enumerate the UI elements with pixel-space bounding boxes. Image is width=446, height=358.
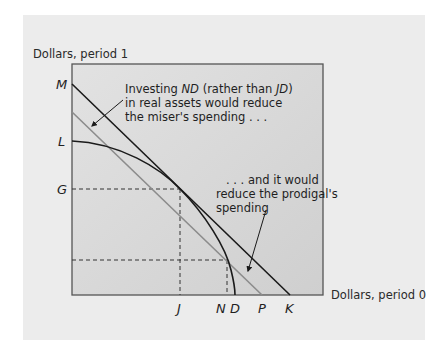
annotation-miser-line1-mid: (rather than: [199, 82, 276, 96]
x-label-j: J: [174, 301, 181, 316]
annotation-miser-line1-em1: ND: [182, 82, 200, 96]
x-label-d: D: [230, 301, 240, 316]
x-label-n: N: [216, 301, 226, 316]
svg-text:Investing ND (rather than JD): Investing ND (rather than JD): [125, 82, 293, 96]
x-label-k: K: [285, 301, 295, 316]
x-axis-title: Dollars, period 0: [331, 288, 426, 302]
annotation-miser-line1-post: ): [288, 82, 293, 96]
y-label-l: L: [58, 134, 65, 149]
annotation-miser-line1-em2: JD: [274, 82, 288, 96]
annotation-miser-line2: in real assets would reduce: [125, 96, 282, 110]
annotation-prodigal-line3: spending: [216, 201, 269, 215]
annotation-prodigal-line1: . . . and it would: [226, 173, 319, 187]
y-label-m: M: [56, 77, 67, 92]
annotation-miser-line1-pre: Investing: [125, 82, 182, 96]
x-label-p: P: [258, 301, 266, 316]
annotation-prodigal-line2: reduce the prodigal's: [216, 187, 338, 201]
figure-stage: Dollars, period 1 Dollars, period 0 M L …: [0, 0, 446, 358]
investment-diagram: Dollars, period 1 Dollars, period 0 M L …: [0, 0, 446, 358]
y-axis-title: Dollars, period 1: [33, 47, 128, 61]
y-label-g: G: [57, 182, 67, 197]
annotation-miser-line3: the miser's spending . . .: [125, 110, 267, 124]
